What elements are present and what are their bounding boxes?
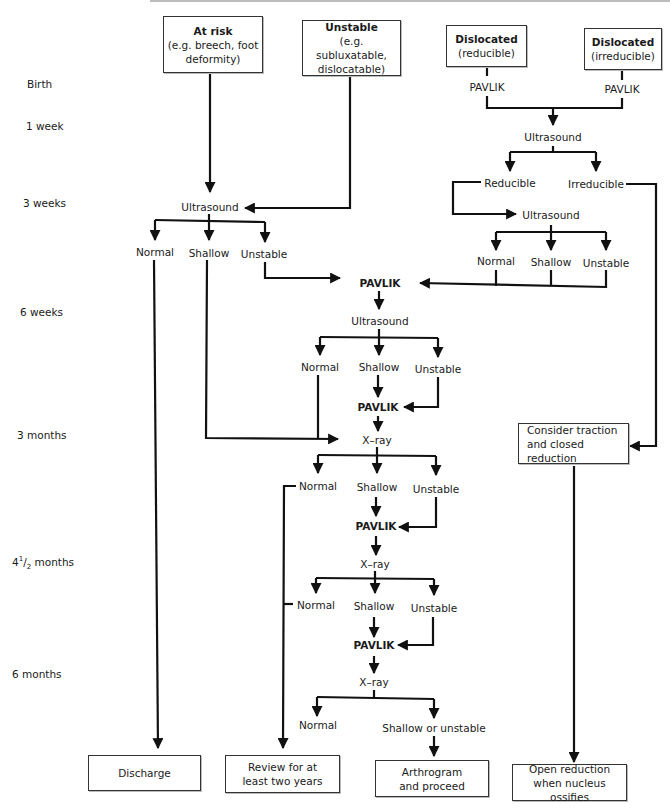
time-label-6-months: 6 months [12,668,62,680]
time-label-3-months: 3 months [17,429,67,441]
node-pavlik-irreducible: PAVLIK [604,83,639,96]
time-label-birth: Birth [27,78,52,90]
node-pavlik-6w-second: PAVLIK [357,401,398,414]
node-pavlik-3m: PAVLIK [355,520,396,533]
box-line: Open reduction [529,762,610,776]
time-label-1-week: 1 week [26,120,64,132]
node-pavlik-reducible: PAVLIK [469,81,504,94]
box-dislocated-irreducible: Dislocated (irreducible) [584,28,662,70]
box-line: Review for at [248,760,317,774]
box-review: Review for at least two years [225,755,340,793]
node-pavlik-4-half-m: PAVLIK [353,639,394,652]
node-reducible: Reducible [484,177,535,190]
node-normal-6w: Normal [301,361,339,374]
box-line: (e.g. subluxatable, [303,34,400,62]
box-title: Dislocated [592,35,654,49]
node-shallow-6w: Shallow [359,361,400,374]
node-unstable-3w-left: Unstable [241,248,287,261]
box-dislocated-reducible: Dislocated (reducible) [446,25,527,67]
box-line: Arthrogram [402,765,462,779]
box-open-reduction: Open reduction when nucleus ossifies [512,764,627,801]
node-unstable-4-half-m: Unstable [411,602,457,615]
node-ultrasound-3-weeks-right: Ultrasound [522,209,579,222]
node-normal-4-half-m: Normal [297,599,335,612]
node-shallow-4-half-m: Shallow [354,600,395,613]
box-discharge: Discharge [88,755,201,791]
node-normal-3w-left: Normal [136,246,174,259]
time-label-3-weeks: 3 weeks [23,197,66,209]
box-line: deformity) [186,52,241,66]
node-ultrasound-6-weeks: Ultrasound [351,315,408,328]
node-xray-3-months: X–ray [362,434,391,447]
box-arthrogram: Arthrogram and proceed [375,760,489,797]
box-line: and closed reduction [527,437,628,465]
flowchart-connectors [0,0,670,810]
node-unstable-6w: Unstable [415,363,461,376]
box-line: when nucleus ossifies [513,776,626,804]
box-unstable: Unstable (e.g. subluxatable, dislocatabl… [302,20,401,76]
box-consider-traction: Consider traction and closed reduction [518,423,629,464]
node-shallow-3w-right: Shallow [531,256,572,269]
node-normal-3m: Normal [299,480,337,493]
node-xray-6-months: X–ray [359,676,388,689]
box-line: Discharge [118,766,171,780]
time-label-unit: months [31,556,74,568]
box-at-risk: At risk (e.g. breech, foot deformity) [163,16,263,73]
node-xray-4-half-months: X–ray [360,558,389,571]
box-title: Unstable [325,20,378,34]
time-label-number: 4 [12,556,19,568]
box-line: (reducible) [458,46,515,60]
box-line: dislocatable) [318,62,385,76]
fraction-numerator: 1 [19,555,23,563]
node-normal-6m: Normal [299,719,337,732]
box-line: (e.g. breech, foot [168,38,259,52]
node-normal-3w-right: Normal [477,255,515,268]
node-unstable-3m: Unstable [413,483,459,496]
node-irreducible: Irreducible [568,178,624,191]
box-line: least two years [242,774,322,788]
node-shallow-3m: Shallow [357,481,398,494]
box-line: Consider traction [527,423,617,437]
box-line: and proceed [399,779,465,793]
box-title: At risk [194,24,233,38]
time-label-4-half-months: 41/2 months [12,555,74,571]
node-shallow-or-unstable-6m: Shallow or unstable [382,722,485,735]
node-shallow-3w-left: Shallow [189,247,230,260]
node-unstable-3w-right: Unstable [583,257,629,270]
time-label-6-weeks: 6 weeks [20,306,63,318]
node-ultrasound-1-week: Ultrasound [524,131,581,144]
node-ultrasound-3-weeks-left: Ultrasound [181,201,238,214]
node-pavlik-6-weeks: PAVLIK [359,277,400,290]
box-title: Dislocated [455,32,517,46]
box-line: (irreducible) [591,49,655,63]
